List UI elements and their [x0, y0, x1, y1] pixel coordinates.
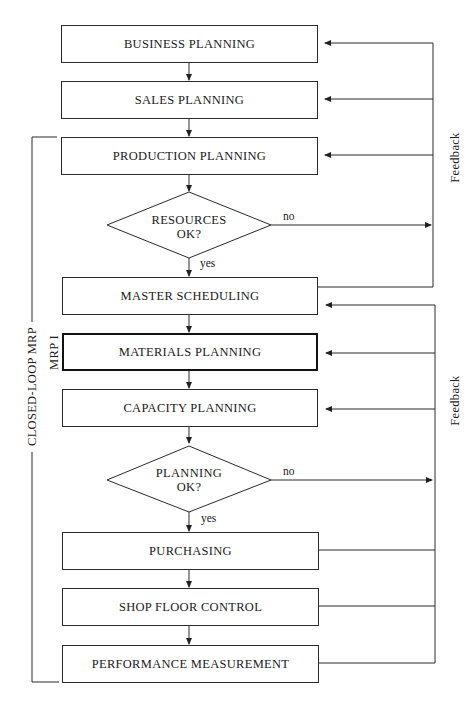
- purchasing-box: PURCHASING: [62, 532, 319, 570]
- decision-line2: OK?: [139, 480, 239, 494]
- closed-loop-mrp-label: CLOSED-LOOP MRP: [25, 325, 40, 449]
- feedback-upper-label: Feedback: [448, 128, 463, 188]
- box-label: CAPACITY PLANNING: [123, 401, 256, 416]
- box-label: PERFORMANCE MEASUREMENT: [92, 657, 290, 672]
- materials-planning-box: MATERIALS PLANNING: [62, 333, 318, 371]
- capacity-planning-box: CAPACITY PLANNING: [62, 389, 318, 427]
- box-label: SHOP FLOOR CONTROL: [119, 600, 262, 615]
- decision-line1: RESOURCES: [139, 213, 239, 227]
- box-label: BUSINESS PLANNING: [124, 37, 255, 52]
- box-label: PRODUCTION PLANNING: [113, 149, 266, 164]
- resources-no-label: no: [283, 210, 295, 222]
- decision-line1: PLANNING: [139, 466, 239, 480]
- planning-yes-label: yes: [201, 512, 216, 524]
- feedback-lower-label: Feedback: [448, 371, 463, 431]
- box-label: MATERIALS PLANNING: [119, 345, 262, 360]
- shop-floor-control-box: SHOP FLOOR CONTROL: [62, 588, 319, 626]
- mrp1-label: MRP I: [47, 333, 62, 373]
- production-planning-box: PRODUCTION PLANNING: [61, 137, 318, 175]
- box-label: SALES PLANNING: [135, 93, 244, 108]
- box-label: PURCHASING: [149, 544, 232, 559]
- box-label: MASTER SCHEDULING: [121, 289, 260, 304]
- planning-decision-label: PLANNING OK?: [139, 466, 239, 494]
- performance-measurement-box: PERFORMANCE MEASUREMENT: [62, 645, 319, 683]
- sales-planning-box: SALES PLANNING: [61, 81, 318, 119]
- master-scheduling-box: MASTER SCHEDULING: [62, 277, 318, 315]
- decision-line2: OK?: [139, 227, 239, 241]
- planning-no-label: no: [283, 465, 295, 477]
- resources-yes-label: yes: [200, 257, 215, 269]
- business-planning-box: BUSINESS PLANNING: [61, 25, 318, 63]
- resources-decision-label: RESOURCES OK?: [139, 213, 239, 241]
